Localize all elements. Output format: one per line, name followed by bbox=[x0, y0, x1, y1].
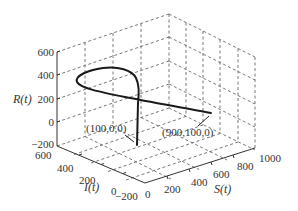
y-tick-labels: 600 400 200 0 −200 bbox=[35, 149, 138, 202]
svg-text:400: 400 bbox=[57, 162, 74, 174]
svg-text:(100,0,0): (100,0,0) bbox=[86, 122, 127, 135]
svg-text:600: 600 bbox=[213, 168, 230, 180]
x-axis-label: S(t) bbox=[214, 182, 231, 196]
plot-3d: 600 400 200 0 −200 R(t) 600 400 200 0 −2… bbox=[0, 0, 298, 211]
svg-text:0: 0 bbox=[49, 116, 55, 128]
annotation-end: (900,100,0) bbox=[162, 116, 214, 139]
z-axis-label: R(t) bbox=[12, 92, 32, 106]
svg-text:400: 400 bbox=[191, 176, 208, 188]
svg-text:600: 600 bbox=[38, 46, 55, 58]
z-tick-labels: 600 400 200 0 −200 bbox=[31, 46, 54, 150]
svg-text:−200: −200 bbox=[115, 190, 138, 202]
svg-text:200: 200 bbox=[164, 183, 181, 195]
svg-text:800: 800 bbox=[237, 160, 254, 172]
axes bbox=[57, 51, 255, 183]
svg-text:200: 200 bbox=[38, 93, 55, 105]
svg-text:1000: 1000 bbox=[259, 152, 282, 164]
y-axis-label: I(t) bbox=[83, 180, 99, 194]
svg-text:(900,100,0): (900,100,0) bbox=[162, 126, 214, 139]
svg-text:600: 600 bbox=[35, 149, 52, 161]
annotation-start: (100,0,0) bbox=[86, 122, 134, 142]
svg-text:400: 400 bbox=[38, 69, 55, 81]
svg-text:0: 0 bbox=[145, 188, 151, 200]
